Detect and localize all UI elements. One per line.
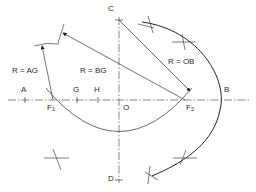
arc-ag-upper bbox=[34, 43, 59, 46]
arc-bg-upper bbox=[58, 24, 64, 43]
cross-3b bbox=[180, 150, 186, 165]
radius-ag-line bbox=[42, 46, 53, 100]
ellipse-construction-diagram: C D A G H O B F1 F2 R = AG R = BG R = OB bbox=[0, 0, 256, 192]
annotation-r-ag: R = AG bbox=[12, 67, 38, 75]
label-A: A bbox=[21, 86, 26, 94]
cross-4a bbox=[145, 172, 158, 180]
cross-1b bbox=[148, 16, 153, 33]
diagram-drawing bbox=[0, 0, 256, 192]
label-D: D bbox=[108, 175, 114, 183]
label-F2: F2 bbox=[186, 104, 194, 113]
radius-ob-line bbox=[119, 20, 190, 91]
label-C: C bbox=[108, 5, 114, 13]
cross-left-b bbox=[53, 149, 61, 170]
label-O: O bbox=[123, 104, 129, 112]
label-G: G bbox=[73, 86, 79, 94]
annotation-r-ob: R = OB bbox=[168, 58, 194, 66]
label-H: H bbox=[94, 86, 100, 94]
label-B: B bbox=[224, 86, 229, 94]
label-F1: F1 bbox=[47, 104, 55, 113]
annotation-r-bg: R = BG bbox=[80, 67, 106, 75]
